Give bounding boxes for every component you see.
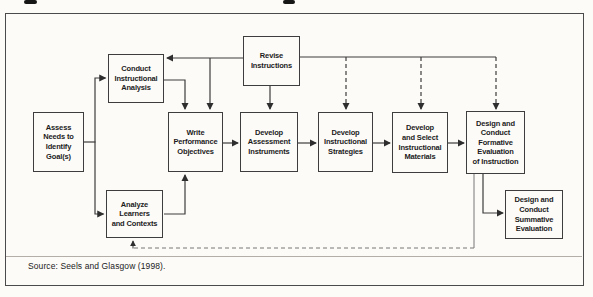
node-analyze-learners-contexts: Analyze Learners and Contexts (106, 190, 163, 238)
node-develop-assessment-instruments: Develop Assessment Instruments (240, 112, 298, 172)
node-design-conduct-summative-evaluation: Design and Conduct Summative Evaluation (505, 190, 563, 239)
source-separator-line (6, 256, 582, 257)
node-revise-instructions: Revise Instructions (243, 36, 300, 86)
node-develop-instructional-strategies: Develop Instructional Strategies (318, 112, 373, 172)
node-develop-select-instructional-materials: Develop and Select Instructional Materia… (392, 112, 448, 173)
scanned-figure-page: Assess Needs to Identify Goal(s) Conduct… (0, 0, 593, 297)
node-conduct-instructional-analysis: Conduct Instructional Analysis (108, 54, 164, 103)
node-design-conduct-formative-evaluation: Design and Conduct Formative Evaluation … (466, 111, 525, 174)
node-write-performance-objectives: Write Performance Objectives (168, 112, 223, 172)
node-assess-needs: Assess Needs to Identify Goal(s) (33, 112, 84, 172)
source-note: Source: Seels and Glasgow (1998). (28, 261, 166, 271)
cropped-title-fragment (283, 0, 295, 4)
cropped-title-fragment (24, 0, 37, 4)
